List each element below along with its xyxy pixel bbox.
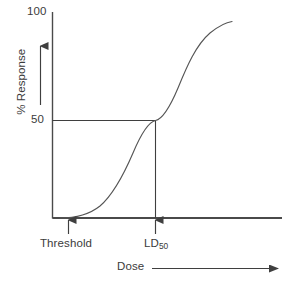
y-axis-title: % Response <box>16 46 28 118</box>
y-axis-tick-label-50: 50 <box>31 114 44 126</box>
y-axis-tick-label-100: 100 <box>27 6 47 18</box>
ld50-label: LD50 <box>144 238 168 250</box>
threshold-label: Threshold <box>40 238 92 250</box>
dose-response-curve <box>60 22 232 219</box>
dose-response-figure: 100 50 % Response Threshold LD50 Dose <box>0 0 286 282</box>
x-axis-title: Dose <box>117 261 144 273</box>
ld50-label-subscript: 50 <box>159 241 168 251</box>
ld50-label-base: LD <box>144 237 159 249</box>
